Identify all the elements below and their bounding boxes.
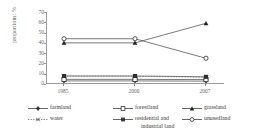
x-axis-tickmark xyxy=(134,83,135,86)
residential-marker-icon xyxy=(113,116,133,123)
legend-item-unusedland[interactable]: unusedland xyxy=(182,115,230,123)
farmland-marker-icon xyxy=(28,105,48,112)
data-point xyxy=(62,37,66,41)
legend-label: forestland xyxy=(135,104,158,112)
y-axis-tickmark xyxy=(44,84,46,85)
legend-label: farmland xyxy=(50,104,71,112)
water-marker-icon xyxy=(28,116,48,123)
y-axis-tick: 20 xyxy=(28,61,44,66)
x-axis-tickmark xyxy=(205,83,206,86)
x-axis-tick: 1985 xyxy=(58,88,69,94)
legend-label-line2: industrial land xyxy=(135,123,174,131)
chart-plot-region: proportions: % 70 60 50 40 30 20 10 0 19… xyxy=(0,0,253,100)
y-axis-tick: 40 xyxy=(28,40,44,45)
legend-item-grassland[interactable]: grassland xyxy=(182,104,226,112)
data-point xyxy=(204,56,208,60)
data-point xyxy=(62,74,66,78)
legend-label: unusedland xyxy=(204,115,230,123)
y-axis-tick: 60 xyxy=(28,20,44,25)
chart-figure: proportions: % 70 60 50 40 30 20 10 0 19… xyxy=(0,0,253,137)
series-layer xyxy=(47,12,225,84)
x-axis-tickmark xyxy=(63,83,64,86)
data-point xyxy=(133,37,137,41)
grassland-marker-icon xyxy=(182,105,202,112)
data-point xyxy=(204,75,208,79)
legend-label: water xyxy=(50,115,63,123)
plot-canvas xyxy=(46,12,224,84)
forestland-marker-icon xyxy=(113,105,133,112)
legend-item-water[interactable]: water xyxy=(28,115,63,123)
x-axis-tick: 2007 xyxy=(200,88,211,94)
legend-label: grassland xyxy=(204,104,226,112)
y-axis-tick-labels: 70 60 50 40 30 20 10 0 xyxy=(26,0,44,84)
y-axis-tick: 30 xyxy=(28,51,44,56)
data-point xyxy=(204,21,209,25)
y-axis-label: proportions: % xyxy=(11,0,17,61)
series-unusedland xyxy=(62,37,208,61)
legend-label: residential and industrial land xyxy=(135,115,174,130)
y-axis-tick: 50 xyxy=(28,30,44,35)
x-axis-tick: 2000 xyxy=(129,88,140,94)
legend-item-forestland[interactable]: forestland xyxy=(113,104,158,112)
y-axis-tick: 10 xyxy=(28,71,44,76)
legend-label-line1: residential and xyxy=(135,115,169,121)
unusedland-marker-icon xyxy=(182,116,202,123)
legend-item-farmland[interactable]: farmland xyxy=(28,104,71,112)
data-point xyxy=(133,74,137,78)
y-axis-tick: 70 xyxy=(28,10,44,15)
y-axis-tick: 0 xyxy=(28,81,44,86)
legend-item-residential-and-industrial-land[interactable]: residential and industrial land xyxy=(113,115,174,130)
chart-legend: farmland forestland grassland xyxy=(0,100,253,137)
